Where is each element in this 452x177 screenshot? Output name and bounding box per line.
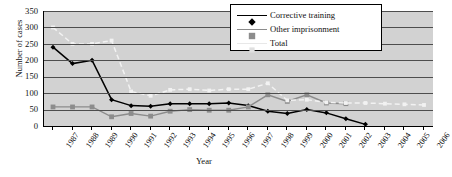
data-point-marker [188,87,192,91]
data-point-marker [324,100,328,104]
data-point-marker [109,114,114,119]
data-point-marker [187,101,192,106]
series-line [53,47,365,124]
legend-item-total: Total [237,36,381,50]
data-point-marker [266,81,270,85]
x-tick-label: 1998 [279,131,296,150]
legend-item-corrective-training: Corrective training [237,8,381,22]
y-tick-label: 350 [16,7,38,16]
y-tick-label: 300 [16,23,38,32]
x-tick-label: 1997 [259,131,276,150]
x-tick-label: 1994 [201,131,218,150]
data-point-marker [246,87,250,91]
legend-item-other-imprisonment: Other imprisonment [237,22,381,36]
y-tick-label: 150 [16,72,38,81]
data-point-marker [129,103,134,108]
legend-label: Other imprisonment [270,24,339,34]
data-point-marker [226,101,231,106]
x-tick-label: 1987 [64,131,81,150]
data-point-marker [168,88,172,92]
x-tick-label: 2000 [318,131,335,150]
data-point-marker [344,101,348,105]
legend-key-diamond-icon [237,10,267,20]
data-point-marker [285,111,290,116]
x-tick-label: 1990 [123,131,140,150]
x-tick-label: 2005 [415,131,432,150]
x-tick-label: 1988 [83,131,100,150]
series-line [53,95,346,117]
y-tick-label: 200 [16,56,38,65]
x-tick-label: 1989 [103,131,120,150]
data-point-marker [324,110,329,115]
dot-marker-icon [248,40,256,58]
y-tick-label: 250 [16,40,38,49]
x-axis-title: Year [196,156,212,166]
data-point-marker [227,87,231,91]
x-tick-label: 2003 [376,131,393,150]
x-tick-label: 2002 [357,131,374,150]
y-tick-label: 100 [16,89,38,98]
x-tick-label: 1992 [162,131,179,150]
data-point-marker [422,103,426,107]
x-tick-label: 1999 [298,131,315,150]
data-point-marker [343,116,348,121]
data-point-marker [168,101,173,106]
chart-legend: Corrective training Other imprisonment T… [230,4,382,51]
data-point-marker [285,98,289,102]
x-tick-label: 1991 [142,131,159,150]
data-point-marker [305,98,309,102]
x-axis-tick-labels: 1987198819891990199119921993199419951996… [0,126,439,166]
x-tick-label: 2004 [396,131,413,150]
x-tick-label: 1995 [220,131,237,150]
data-point-marker [364,101,368,105]
gridline [44,110,433,111]
data-point-marker [109,97,114,102]
legend-label: Total [270,38,288,48]
data-point-marker [207,89,211,93]
data-point-marker [149,94,153,98]
legend-key-square-icon [237,24,267,34]
data-point-marker [110,39,114,43]
x-tick-label: 2001 [337,131,354,150]
x-tick-label: 2006 [435,131,452,150]
data-point-marker [383,102,387,106]
data-point-marker [403,102,407,106]
y-tick-label: 50 [16,105,38,114]
data-point-marker [148,114,153,119]
gridline [44,60,433,61]
gridline [44,77,433,78]
gridline [44,93,433,94]
data-point-marker [148,104,153,109]
x-tick-label: 1993 [181,131,198,150]
data-point-marker [207,101,212,106]
legend-key-total-icon [237,38,267,48]
data-point-marker [129,111,134,116]
legend-label: Corrective training [270,10,335,20]
x-tick-label: 1996 [240,131,257,150]
